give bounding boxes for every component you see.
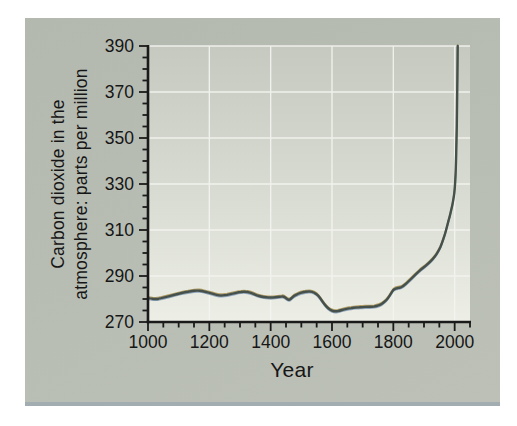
- y-tick-label: 330: [105, 174, 134, 194]
- x-axis-title: Year: [270, 358, 314, 382]
- x-tick-label: 1000: [129, 332, 168, 352]
- y-axis-title-line1: Carbon dioxide in the: [47, 68, 70, 299]
- y-axis-title: Carbon dioxide in the atmosphere: parts …: [47, 68, 93, 299]
- x-tick-label: 1600: [313, 332, 352, 352]
- figure: 1000120014001600180020002702903103303503…: [0, 0, 517, 426]
- y-tick-label: 310: [105, 220, 134, 240]
- y-tick-label: 370: [105, 82, 134, 102]
- y-tick-label: 350: [105, 128, 134, 148]
- x-tick-label: 1400: [251, 332, 290, 352]
- x-tick-label: 1200: [190, 332, 229, 352]
- y-tick-label: 290: [105, 266, 134, 286]
- x-tick-label: 1800: [374, 332, 413, 352]
- y-tick-label: 390: [105, 36, 134, 56]
- y-tick-label: 270: [105, 312, 134, 332]
- y-axis-title-line2: atmosphere: parts per million: [70, 68, 93, 299]
- x-tick-label: 2000: [435, 332, 474, 352]
